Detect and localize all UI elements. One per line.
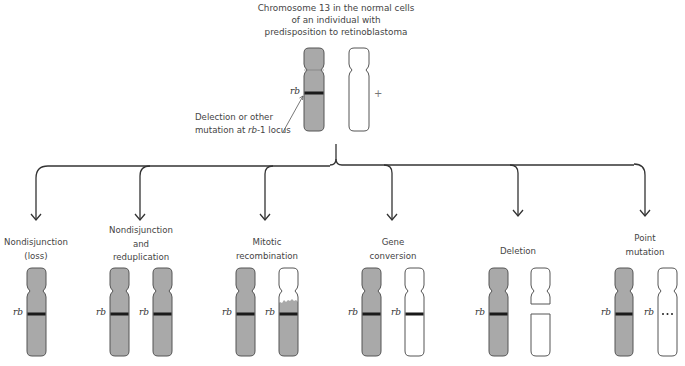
panel-1-locus-label: rb (13, 307, 23, 317)
panel-1-chromosome-mutant (27, 268, 46, 356)
panel-2-chromosome-a (110, 268, 129, 356)
arrowheads (31, 210, 650, 220)
panel-4-chromosome-mutant (362, 268, 381, 356)
branch-lines (36, 144, 645, 220)
panel-2-label-line-1: Nondisjunction (100, 224, 182, 238)
panel-3-label-line-2: recombination (226, 250, 308, 264)
top-chromosome-normal (349, 48, 369, 131)
panel-6-locus-label-a: rb (601, 307, 611, 317)
panel-6-chromosome-mutant (615, 268, 633, 356)
panel-5-label: Deletion (478, 245, 558, 259)
panel-2-label: Nondisjunction and reduplication (100, 224, 182, 265)
panel-4-locus-label-a: rb (348, 307, 358, 317)
panel-3-chromosome-mutant (236, 268, 255, 356)
panel-3-locus-label-b: rb (265, 307, 275, 317)
panel-6-label: Point mutation (605, 232, 685, 259)
panel-3-chromosome-recombined (278, 268, 300, 362)
panel-4-chromosome-converted (405, 268, 424, 356)
annotation-line-1: Delection or other (195, 111, 291, 124)
panel-1-label-line-2: (loss) (0, 250, 76, 264)
panel-4-label-line-1: Gene (352, 236, 434, 250)
panel-4-label-line-2: conversion (352, 250, 434, 264)
panel-2-locus-label-b: rb (139, 307, 149, 317)
panel-4-label: Gene conversion (352, 236, 434, 263)
panel-5-locus-label: rb (475, 307, 485, 317)
panel-5-chromosome-deleted (531, 268, 550, 356)
panel-1-label: Nondisjunction (loss) (0, 236, 76, 263)
panel-5-chromosome-mutant (489, 268, 508, 356)
mutation-annotation: Delection or other mutation at rb-1 locu… (195, 111, 291, 137)
annotation-locus: rb (248, 125, 257, 135)
panel-1-label-line-1: Nondisjunction (0, 236, 76, 250)
annotation-text: mutation at (195, 125, 248, 135)
panel-4-locus-label-b: rb (391, 307, 401, 317)
panel-6-label-line-2: mutation (605, 246, 685, 260)
panel-2-label-line-2: and (100, 238, 182, 252)
annotation-text-suffix: -1 locus (257, 125, 291, 135)
panel-3-label-line-1: Mitotic (226, 236, 308, 250)
panel-6-chromosome-point-mutated (658, 268, 677, 356)
panel-3-label: Mitotic recombination (226, 236, 308, 263)
panel-6-locus-label-b: rb (644, 307, 654, 317)
top-locus-label: rb (290, 86, 300, 96)
panel-2-chromosome-b (153, 268, 172, 356)
plus-sign: + (374, 88, 382, 100)
panel-2-locus-label-a: rb (96, 307, 106, 317)
top-chromosome-mutant (304, 48, 324, 131)
panel-2-label-line-3: reduplication (100, 251, 182, 265)
panel-5-label-line-1: Deletion (478, 245, 558, 259)
annotation-line-2: mutation at rb-1 locus (195, 124, 291, 137)
panel-3-locus-label-a: rb (222, 307, 232, 317)
panel-6-label-line-1: Point (605, 232, 685, 246)
